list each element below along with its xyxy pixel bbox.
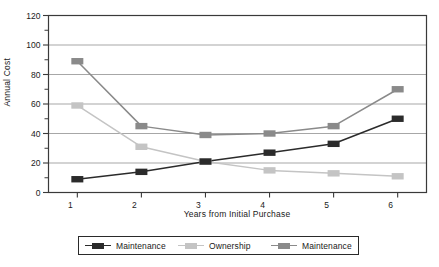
svg-text:0: 0 (36, 188, 41, 198)
svg-text:1: 1 (68, 200, 73, 210)
series-markers (71, 58, 403, 182)
legend-swatch-icon-1 (178, 241, 204, 250)
chart-legend: Maintenance Ownership Maintenance (78, 236, 359, 255)
x-axis-ticks (77, 193, 397, 198)
legend-swatch-icon-2 (271, 241, 297, 250)
svg-text:2: 2 (132, 200, 137, 210)
x-axis-label: Years from Initial Purchase (48, 209, 426, 219)
svg-text:100: 100 (26, 40, 40, 50)
legend-label-0: Maintenance (116, 241, 166, 251)
legend-label-2: Maintenance (302, 241, 352, 251)
series-lines (77, 61, 397, 179)
legend-swatch-icon-0 (85, 241, 111, 250)
legend-entry-1[interactable]: Ownership (172, 241, 265, 251)
svg-text:80: 80 (31, 70, 41, 80)
plot-area: 020406080100120 123456 (0, 0, 439, 267)
svg-text:120: 120 (26, 11, 40, 21)
x-axis-tick-labels: 123456 (68, 200, 393, 210)
svg-text:60: 60 (31, 99, 41, 109)
chart-figure: Annual Cost 020406080100120 123456 Years… (0, 0, 439, 267)
legend-entry-0[interactable]: Maintenance (79, 241, 172, 251)
legend-entry-2[interactable]: Maintenance (265, 241, 358, 251)
y-axis-major-ticks (43, 16, 49, 193)
svg-text:20: 20 (31, 158, 41, 168)
gridlines (49, 45, 427, 163)
y-axis-tick-labels: 020406080100120 (26, 11, 40, 198)
svg-text:5: 5 (324, 200, 329, 210)
svg-text:4: 4 (260, 200, 265, 210)
svg-text:6: 6 (388, 200, 393, 210)
svg-text:3: 3 (196, 200, 201, 210)
legend-label-1: Ownership (209, 241, 251, 251)
svg-text:40: 40 (31, 129, 41, 139)
